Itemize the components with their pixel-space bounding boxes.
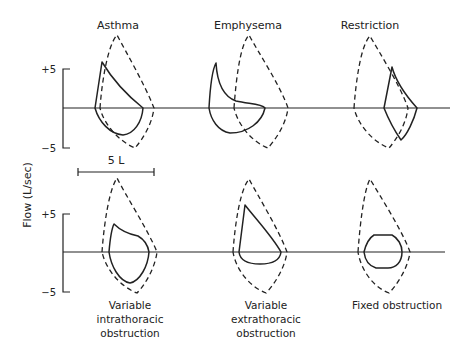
fixed-obstruction-panel [358, 179, 410, 293]
asthma-panel [95, 35, 154, 148]
intrathoracic-caption-line3: obstruction [100, 327, 160, 339]
bottom-plus5-tick: +5 [41, 209, 56, 220]
asthma-title: Asthma [97, 19, 139, 32]
normal-loop-dashed [100, 35, 154, 148]
flow-volume-loops-figure: +5 −5 +5 −5 Flow (L/sec) 5 L Asthma Emph… [0, 0, 466, 352]
top-row-axis: +5 −5 [41, 64, 450, 154]
fixed-obstruction-caption: Fixed obstruction [352, 299, 442, 311]
top-plus5-tick: +5 [41, 64, 56, 75]
extrathoracic-loop-solid [239, 205, 281, 264]
restriction-title: Restriction [341, 19, 400, 32]
emphysema-panel [209, 35, 288, 148]
extrathoracic-caption-line3: obstruction [236, 327, 296, 339]
extrathoracic-panel [233, 179, 287, 293]
asthma-loop-solid [95, 62, 143, 135]
intrathoracic-panel [102, 178, 157, 293]
normal-loop-dashed [358, 179, 410, 293]
emphysema-title: Emphysema [214, 19, 282, 32]
extrathoracic-caption-line2: extrathoracic [231, 313, 301, 325]
y-axis-label: Flow (L/sec) [21, 162, 34, 228]
intrathoracic-caption-line1: Variable [109, 299, 152, 311]
intrathoracic-loop-solid [109, 224, 149, 283]
volume-scale-bar: 5 L [78, 154, 154, 176]
scale-bar-label: 5 L [108, 154, 125, 167]
normal-loop-dashed [354, 36, 408, 148]
restriction-loop-solid [384, 67, 417, 140]
intrathoracic-caption-line2: intrathoracic [97, 313, 164, 325]
bottom-y-bracket [63, 214, 70, 292]
restriction-panel [354, 36, 417, 148]
top-minus5-tick: −5 [41, 143, 56, 154]
extrathoracic-caption-line1: Variable [245, 299, 288, 311]
bottom-minus5-tick: −5 [41, 287, 56, 298]
